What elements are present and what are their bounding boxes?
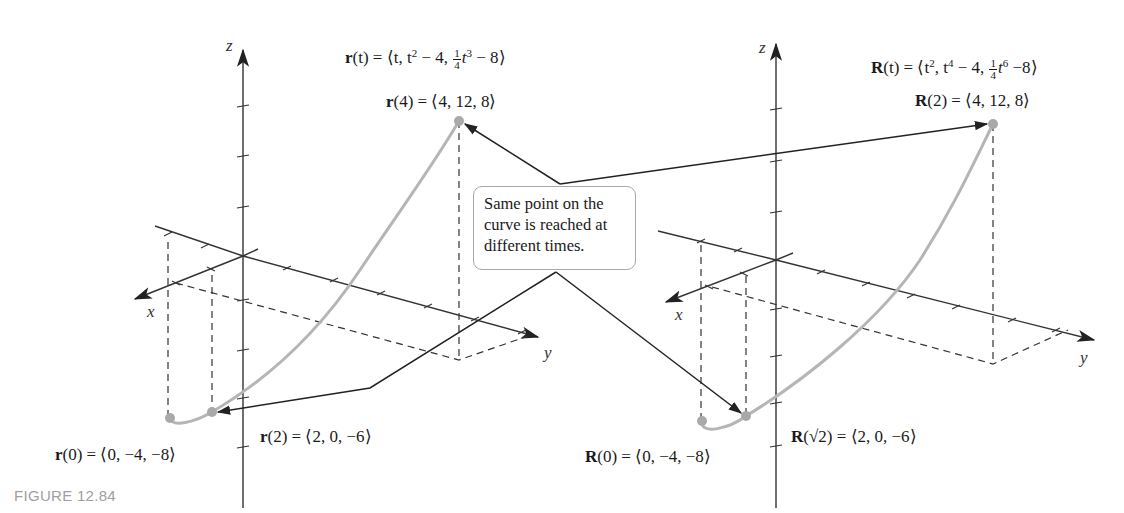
right-x-ticks <box>705 272 748 289</box>
left-y-label: y <box>544 343 552 363</box>
label-R2: R(2) = ⟨4, 12, 8⟩ <box>915 92 1030 109</box>
left-point-r0 <box>165 413 175 423</box>
right-projection-lines <box>701 124 1068 422</box>
left-function-label: r(t) = ⟨t, t2 − 4, 14t3 − 8⟩ <box>345 48 506 71</box>
left-curve <box>170 121 459 423</box>
right-y-axis <box>776 260 1094 340</box>
label-R0: R(0) = ⟨0, −4, −8⟩ <box>585 448 711 465</box>
right-z-label: z <box>759 38 766 58</box>
right-x-axis <box>666 260 776 302</box>
arrow-to-R2 <box>560 124 987 184</box>
figure-caption: FIGURE 12.84 <box>14 487 116 504</box>
right-y-label: y <box>1080 348 1088 368</box>
right-x-label: x <box>675 305 683 325</box>
callout-box: Same point on the curve is reached at di… <box>473 186 636 270</box>
callout-line: Same point on the <box>484 193 625 214</box>
left-projection-lines <box>168 121 531 418</box>
label-Rsqrt2: R(√2) = ⟨2, 0, −6⟩ <box>791 428 917 445</box>
left-point-r4 <box>454 116 464 126</box>
right-function-label: R(t) = ⟨t2, t4 − 4, 14t6 −8⟩ <box>871 58 1038 81</box>
left-y-axis-back <box>155 226 243 256</box>
right-y-axis-back <box>658 231 776 260</box>
arrow-to-Rsqrt2 <box>556 272 741 413</box>
right-point-R0 <box>697 416 707 426</box>
left-z-label: z <box>226 36 233 56</box>
left-point-r2 <box>207 407 217 417</box>
arrow-to-r4 <box>465 124 560 184</box>
callout-line: different times. <box>484 235 625 256</box>
right-point-Rsqrt2 <box>741 411 751 421</box>
arrow-to-r2 <box>218 272 556 412</box>
right-point-R2 <box>988 119 998 129</box>
fraction-one-quarter: 14 <box>989 58 997 81</box>
label-r0: r(0) = ⟨0, −4, −8⟩ <box>55 446 176 463</box>
right-x-axis-back <box>776 253 793 260</box>
left-x-axis <box>135 256 243 299</box>
fraction-one-quarter: 14 <box>453 48 461 71</box>
left-x-label: x <box>147 302 155 322</box>
label-r4: r(4) = ⟨4, 12, 8⟩ <box>386 93 496 110</box>
left-x-axis-back <box>243 249 258 256</box>
label-r2: r(2) = ⟨2, 0, −6⟩ <box>260 428 372 445</box>
callout-line: curve is reached at <box>484 214 625 235</box>
